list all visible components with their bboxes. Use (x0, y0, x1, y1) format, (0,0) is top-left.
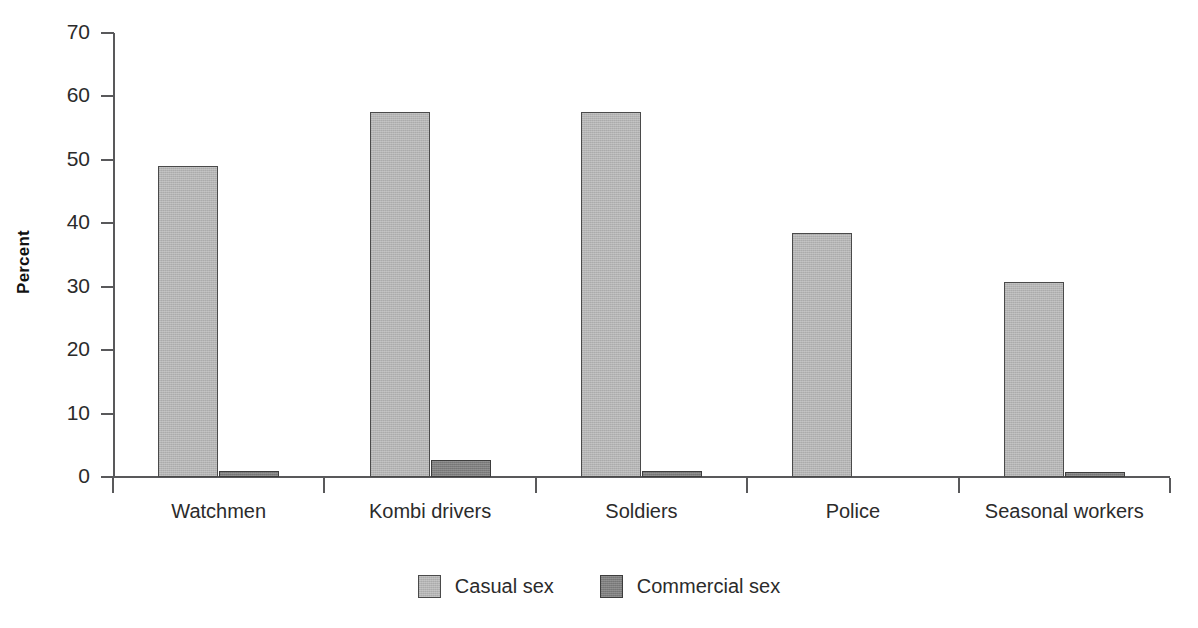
y-tick-70 (101, 32, 114, 34)
y-tick-50 (101, 159, 114, 161)
bar-commercial-4 (1065, 472, 1125, 477)
x-tick-3 (746, 478, 748, 493)
x-tick-2 (535, 478, 537, 493)
y-tick-30 (101, 286, 114, 288)
bar-casual-0 (158, 166, 218, 477)
y-axis-line (113, 33, 115, 478)
bar-casual-4 (1004, 282, 1064, 477)
y-tick-10 (101, 413, 114, 415)
x-tick-0 (112, 478, 114, 493)
legend-item-casual[interactable]: Casual sex (418, 575, 554, 598)
legend-swatch-casual-icon (418, 575, 441, 598)
category-label-2: Soldiers (605, 500, 677, 523)
x-tick-4 (958, 478, 960, 493)
y-tick-label-10: 10 (30, 401, 90, 425)
bar-commercial-1 (431, 460, 491, 477)
category-label-1: Kombi drivers (369, 500, 491, 523)
y-tick-label-60: 60 (30, 83, 90, 107)
category-label-4: Seasonal workers (985, 500, 1144, 523)
legend-item-commercial[interactable]: Commercial sex (600, 575, 780, 598)
y-tick-40 (101, 222, 114, 224)
y-tick-label-70: 70 (30, 20, 90, 44)
y-tick-label-30: 30 (30, 274, 90, 298)
legend-label-commercial: Commercial sex (637, 575, 780, 598)
y-tick-label-50: 50 (30, 147, 90, 171)
y-tick-label-20: 20 (30, 337, 90, 361)
bar-commercial-2 (642, 471, 702, 477)
legend-swatch-commercial-icon (600, 575, 623, 598)
y-tick-20 (101, 349, 114, 351)
legend-label-casual: Casual sex (455, 575, 554, 598)
category-label-3: Police (826, 500, 880, 523)
category-label-0: Watchmen (171, 500, 266, 523)
y-tick-label-40: 40 (30, 210, 90, 234)
x-tick-5 (1169, 478, 1171, 493)
chart-legend: Casual sexCommercial sex (0, 575, 1198, 598)
x-tick-1 (323, 478, 325, 493)
y-tick-label-0: 0 (30, 464, 90, 488)
bar-casual-3 (792, 233, 852, 477)
y-tick-60 (101, 95, 114, 97)
bar-commercial-0 (219, 471, 279, 477)
bar-casual-1 (370, 112, 430, 477)
bar-chart: Percent 010203040506070 WatchmenKombi dr… (0, 0, 1198, 628)
bar-casual-2 (581, 112, 641, 477)
